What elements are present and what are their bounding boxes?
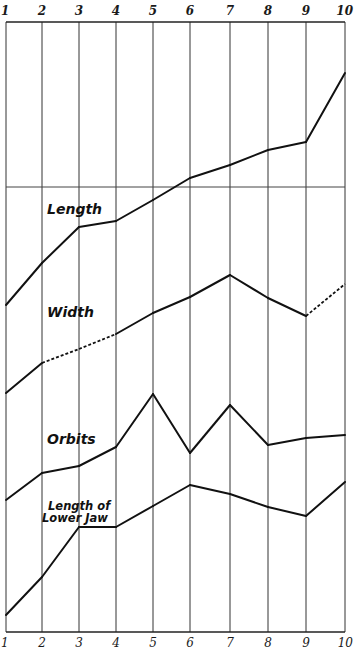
top-tick-8: 8 (264, 4, 273, 18)
top-tick-4: 4 (112, 4, 120, 18)
top-tick-3: 3 (75, 4, 83, 18)
series-label-width: Width (47, 304, 94, 320)
series-label-jaw-line2: Lower Jaw (42, 511, 108, 525)
bottom-tick-1: 1 (1, 636, 9, 650)
series-lines (6, 73, 345, 615)
bottom-tick-3: 3 (75, 636, 83, 650)
top-tick-10: 10 (336, 4, 353, 18)
bottom-tick-9: 9 (302, 636, 310, 650)
top-tick-9: 9 (302, 4, 311, 18)
top-tick-1: 1 (1, 4, 9, 18)
series-label-length: Length (47, 201, 102, 217)
bottom-tick-8: 8 (264, 636, 272, 650)
chart-frame (6, 22, 345, 632)
series-orbits (6, 394, 345, 500)
series-width (6, 275, 345, 393)
bottom-tick-6: 6 (186, 636, 194, 650)
grid-lines (6, 22, 345, 632)
top-tick-2: 2 (37, 4, 46, 18)
top-tick-7: 7 (226, 4, 235, 18)
bottom-tick-4: 4 (111, 636, 120, 650)
bottom-tick-labels: 12345678910 (1, 636, 353, 650)
top-tick-5: 5 (149, 4, 157, 18)
top-tick-labels: 12345678910 (1, 4, 354, 18)
bottom-tick-7: 7 (226, 636, 234, 650)
bottom-tick-10: 10 (338, 636, 354, 650)
bottom-tick-2: 2 (37, 636, 46, 650)
series-label-orbits: Orbits (47, 431, 96, 447)
bottom-tick-5: 5 (149, 636, 157, 650)
line-chart: 12345678910 12345678910 Length Width Orb… (0, 0, 354, 653)
series-length (6, 73, 345, 305)
top-tick-6: 6 (186, 4, 195, 18)
